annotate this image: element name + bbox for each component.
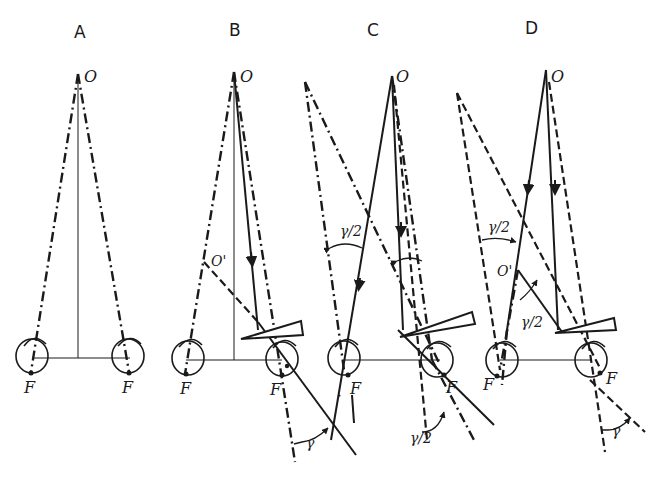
left-fovea-label: F <box>482 375 495 394</box>
panel-b: B O O' F F γ <box>172 20 356 462</box>
right-fovea-label: F <box>605 369 618 388</box>
angle-half-gamma-arc-upper <box>482 238 516 242</box>
left-visual-axis <box>185 72 234 374</box>
right-visual-axis <box>234 72 295 462</box>
angle-half-gamma-label-upper: γ/2 <box>488 219 510 235</box>
panel-a: A O F F <box>16 22 144 397</box>
deviated-axis <box>394 85 427 440</box>
light-ray-left <box>331 76 392 440</box>
panel-c: C O F <box>305 20 494 446</box>
angle-gamma-label: γ <box>612 423 621 439</box>
angle-half-gamma-label-lower: γ/2 <box>410 430 432 446</box>
right-visual-axis <box>549 82 605 452</box>
fixation-point-label: O <box>396 67 409 86</box>
angle-gamma-label: γ <box>306 435 315 451</box>
ray-segment <box>339 395 340 396</box>
angle-half-gamma-arc-upper <box>330 244 362 248</box>
fixation-point-label: O <box>240 67 253 86</box>
prism <box>400 312 475 337</box>
binocular-prism-diagram: A O F F B O O' <box>0 0 662 481</box>
left-fovea-label: F <box>179 379 192 398</box>
angle-half-gamma-label-lower: γ/2 <box>521 314 543 330</box>
panel-d: D O O' F F <box>457 18 645 452</box>
axis-segment <box>352 395 354 423</box>
ray-arrow-icon <box>359 278 360 286</box>
left-fovea-label: F <box>349 379 362 398</box>
virtual-point-label: O' <box>497 263 512 279</box>
ray-arrow-icon <box>528 180 529 190</box>
deviated-axis <box>204 262 258 322</box>
light-ray <box>234 72 258 330</box>
left-fovea-label: F <box>23 378 36 397</box>
ray-arrow-icon <box>251 252 252 262</box>
angle-half-gamma-label-upper: γ/2 <box>340 223 362 239</box>
fixation-point-label: O <box>84 67 97 86</box>
virtual-point-label: O' <box>211 253 226 269</box>
fixation-point-label: O <box>551 67 564 86</box>
right-visual-axis <box>78 74 129 372</box>
prism <box>241 321 303 339</box>
panel-b-title: B <box>229 20 241 40</box>
left-visual-axis <box>31 74 78 372</box>
angle-half-gamma-arc-lower <box>520 280 537 300</box>
panel-d-title: D <box>525 18 538 38</box>
right-fovea-label: F <box>445 378 458 397</box>
panel-a-title: A <box>74 22 86 42</box>
right-fovea-label: F <box>121 378 134 397</box>
right-fovea-label: F <box>269 380 282 399</box>
left-eye <box>16 338 48 375</box>
panel-c-title: C <box>367 20 379 40</box>
